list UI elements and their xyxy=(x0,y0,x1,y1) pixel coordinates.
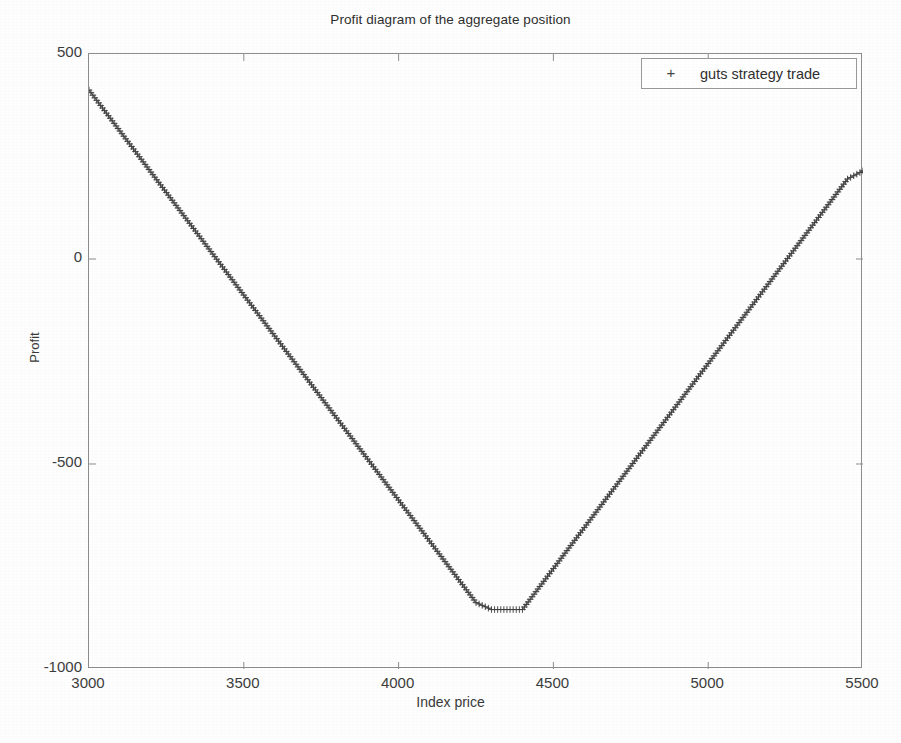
x-tick-label: 4000 xyxy=(358,674,438,691)
chart-figure: Profit diagram of the aggregate position… xyxy=(0,0,901,743)
legend[interactable]: + guts strategy trade xyxy=(641,58,857,89)
x-tick-label: 5000 xyxy=(667,674,747,691)
x-axis-tick-labels: 300035004000450050005500 xyxy=(0,0,901,743)
plus-marker-icon: + xyxy=(642,65,700,82)
y-axis-label: Profit xyxy=(27,308,42,388)
x-tick-label: 5500 xyxy=(822,674,901,691)
x-axis-label: Index price xyxy=(0,694,901,710)
x-tick-label: 4500 xyxy=(512,674,592,691)
legend-item-label: guts strategy trade xyxy=(700,66,820,82)
x-tick-label: 3500 xyxy=(203,674,283,691)
x-tick-label: 3000 xyxy=(48,674,128,691)
